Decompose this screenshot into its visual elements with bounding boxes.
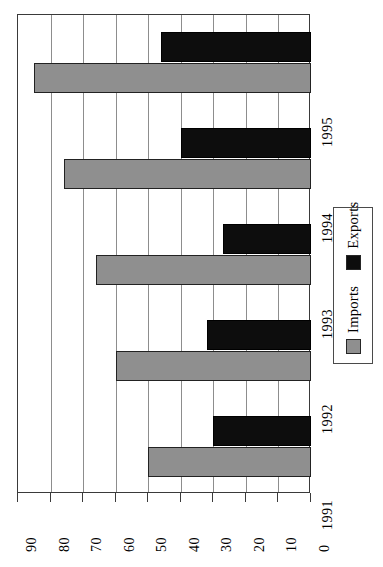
tick-mark-30: [212, 493, 213, 502]
legend-label-exports: Exports: [345, 202, 362, 249]
tick-mark-50: [147, 493, 148, 502]
bar-imports-1991: [148, 447, 311, 477]
category-label-1992: 1992: [320, 384, 336, 454]
bar-imports-1993: [96, 255, 311, 285]
bar-exports-1991: [213, 416, 311, 446]
legend-swatch-exports: [346, 255, 361, 270]
plot-area: [17, 14, 310, 493]
legend-entry-exports: Exports: [345, 202, 362, 270]
tick-mark-90: [17, 493, 18, 502]
legend-label-imports: Imports: [345, 286, 362, 333]
legend-entry-imports: Imports: [345, 286, 362, 354]
tick-label-80: 80: [57, 506, 73, 552]
bar-imports-1994: [64, 159, 311, 189]
category-label-1995: 1995: [320, 97, 336, 167]
tick-label-70: 70: [89, 506, 105, 552]
tick-label-50: 50: [154, 506, 170, 552]
chart-legend: Imports Exports: [333, 207, 373, 364]
tick-mark-60: [115, 493, 116, 502]
tick-label-40: 40: [187, 506, 203, 552]
tick-mark-10: [277, 493, 278, 502]
bar-exports-1994: [181, 128, 311, 158]
tick-label-90: 90: [24, 506, 40, 552]
tick-label-10: 10: [284, 506, 300, 552]
tick-label-20: 20: [252, 506, 268, 552]
tick-mark-20: [245, 493, 246, 502]
tick-label-60: 60: [122, 506, 138, 552]
tick-label-30: 30: [219, 506, 235, 552]
tick-mark-70: [82, 493, 83, 502]
bar-exports-1995: [161, 32, 311, 62]
tick-mark-80: [50, 493, 51, 502]
bar-exports-1993: [223, 224, 311, 254]
bar-imports-1995: [34, 63, 311, 93]
category-label-1991: 1991: [320, 480, 336, 550]
bar-exports-1992: [207, 320, 311, 350]
legend-swatch-imports: [346, 339, 361, 354]
bar-chart-figure: 9080706050403020100 19911992199319941995…: [0, 0, 383, 567]
tick-mark-40: [180, 493, 181, 502]
bar-imports-1992: [116, 351, 311, 381]
tick-mark-0: [310, 493, 311, 502]
